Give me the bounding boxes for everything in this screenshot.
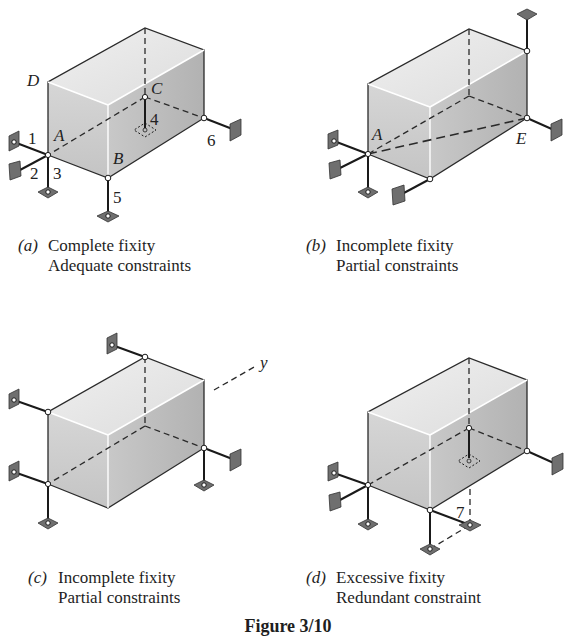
link-label-7: 7: [456, 503, 465, 522]
caption-c: (c)Incomplete fixity Partial constraints: [28, 568, 180, 608]
axis-label-y: y: [258, 353, 268, 372]
caption-tag: (d): [306, 568, 336, 588]
caption-tag: (c): [28, 568, 58, 588]
box-diagram-c: y: [0, 320, 288, 550]
box-diagram-b: A E: [288, 0, 576, 230]
panel-a: D A B C 1 2 3 4 5 6: [0, 0, 288, 230]
caption-b: (b)Incomplete fixity Partial constraints: [306, 236, 458, 276]
point-label-a: A: [53, 126, 65, 145]
panel-d: 7: [288, 320, 576, 550]
caption-line2: Partial constraints: [28, 588, 180, 608]
link-label-4: 4: [150, 110, 159, 129]
caption-line2: Adequate constraints: [18, 256, 191, 276]
link-label-1: 1: [28, 129, 37, 148]
caption-line1: Incomplete fixity: [58, 568, 176, 587]
point-label-b: B: [113, 149, 124, 168]
caption-line1: Incomplete fixity: [336, 236, 454, 255]
point-label-d: D: [26, 71, 40, 90]
point-label-a: A: [371, 125, 383, 144]
link-label-2: 2: [30, 164, 39, 183]
caption-a: (a)Complete fixity Adequate constraints: [18, 236, 191, 276]
link-label-5: 5: [113, 188, 122, 207]
axis-line-y: [214, 366, 256, 390]
caption-line1: Excessive fixity: [336, 568, 445, 587]
link-label-6: 6: [207, 131, 216, 150]
panel-c: y: [0, 320, 288, 550]
caption-d: (d)Excessive fixity Redundant constraint: [306, 568, 481, 608]
caption-line1: Complete fixity: [48, 236, 155, 255]
caption-tag: (b): [306, 236, 336, 256]
panel-b: A E: [288, 0, 576, 230]
caption-line2: Partial constraints: [306, 256, 458, 276]
figure-title: Figure 3/10: [0, 616, 576, 637]
caption-tag: (a): [18, 236, 48, 256]
point-label-c: C: [151, 79, 163, 98]
link-label-3: 3: [53, 164, 62, 183]
box-diagram-d: 7: [288, 320, 576, 560]
point-label-e: E: [515, 129, 527, 148]
box-diagram-a: D A B C 1 2 3 4 5 6: [0, 0, 288, 230]
caption-line2: Redundant constraint: [306, 588, 481, 608]
